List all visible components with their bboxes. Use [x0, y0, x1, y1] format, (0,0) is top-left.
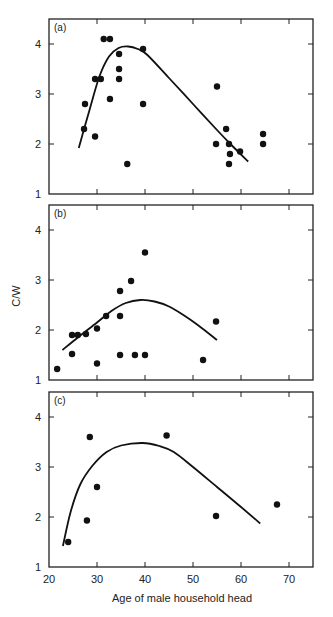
data-point — [117, 352, 123, 358]
x-tick-label: 60 — [235, 573, 247, 585]
data-point — [124, 161, 130, 167]
data-point — [214, 83, 220, 89]
x-axis-label: Age of male household head — [112, 592, 252, 604]
data-point — [226, 141, 232, 147]
plot-frame — [49, 19, 313, 194]
y-tick-label: 2 — [35, 138, 41, 150]
data-point — [226, 161, 232, 167]
data-point — [116, 51, 122, 57]
data-point — [94, 484, 100, 490]
y-tick-label: 3 — [35, 461, 41, 473]
data-point — [103, 313, 109, 319]
y-tick-label: 4 — [35, 38, 41, 50]
x-tick-label: 20 — [43, 573, 55, 585]
panel-label: (c) — [54, 395, 66, 406]
data-point — [116, 66, 122, 72]
data-point — [54, 366, 60, 372]
data-point — [213, 141, 219, 147]
data-point — [65, 539, 71, 545]
data-point — [84, 517, 90, 523]
panel-b: 1234(b) — [35, 205, 313, 386]
x-tick-label: 70 — [283, 573, 295, 585]
panel-label: (a) — [54, 22, 66, 33]
y-axis-label: C/W — [10, 285, 22, 307]
data-point — [237, 148, 243, 154]
data-point — [140, 46, 146, 52]
data-point — [69, 332, 75, 338]
data-point — [140, 101, 146, 107]
data-point — [107, 96, 113, 102]
data-point — [98, 76, 104, 82]
trend-curve — [62, 300, 217, 350]
data-point — [81, 126, 87, 132]
data-point — [94, 325, 100, 331]
plot-frame — [49, 392, 313, 567]
data-point — [274, 501, 280, 507]
data-point — [142, 352, 148, 358]
panel-c: 1234(c) — [35, 392, 313, 573]
data-point — [128, 278, 134, 284]
data-point — [92, 133, 98, 139]
data-point — [142, 249, 148, 255]
trend-curve — [79, 46, 248, 161]
x-tick-label: 50 — [187, 573, 199, 585]
y-tick-label: 1 — [35, 374, 41, 386]
data-point — [69, 351, 75, 357]
data-point — [260, 131, 266, 137]
data-point — [213, 318, 219, 324]
data-point — [117, 288, 123, 294]
data-point — [82, 101, 88, 107]
data-point — [107, 36, 113, 42]
data-point — [83, 331, 89, 337]
panel-label: (b) — [54, 208, 66, 219]
y-tick-label: 4 — [35, 224, 41, 236]
x-tick-label: 30 — [91, 573, 103, 585]
data-point — [163, 432, 169, 438]
chart: 1234(a)1234(b)1234(c)203040506070 C/W Ag… — [0, 0, 333, 617]
data-point — [94, 360, 100, 366]
data-point — [227, 151, 233, 157]
data-point — [132, 352, 138, 358]
data-point — [260, 141, 266, 147]
y-tick-label: 4 — [35, 411, 41, 423]
y-tick-label: 1 — [35, 561, 41, 573]
data-point — [75, 332, 81, 338]
data-point — [117, 313, 123, 319]
trend-curve — [63, 443, 260, 546]
plot-frame — [49, 205, 313, 380]
x-tick-label: 40 — [139, 573, 151, 585]
y-tick-label: 3 — [35, 274, 41, 286]
data-point — [223, 126, 229, 132]
data-point — [92, 76, 98, 82]
data-point — [213, 513, 219, 519]
y-tick-label: 1 — [35, 188, 41, 200]
data-point — [116, 76, 122, 82]
y-tick-label: 3 — [35, 88, 41, 100]
data-point — [101, 36, 107, 42]
y-tick-label: 2 — [35, 511, 41, 523]
data-point — [200, 357, 206, 363]
y-tick-label: 2 — [35, 324, 41, 336]
panel-a: 1234(a) — [35, 19, 313, 200]
data-point — [87, 434, 93, 440]
